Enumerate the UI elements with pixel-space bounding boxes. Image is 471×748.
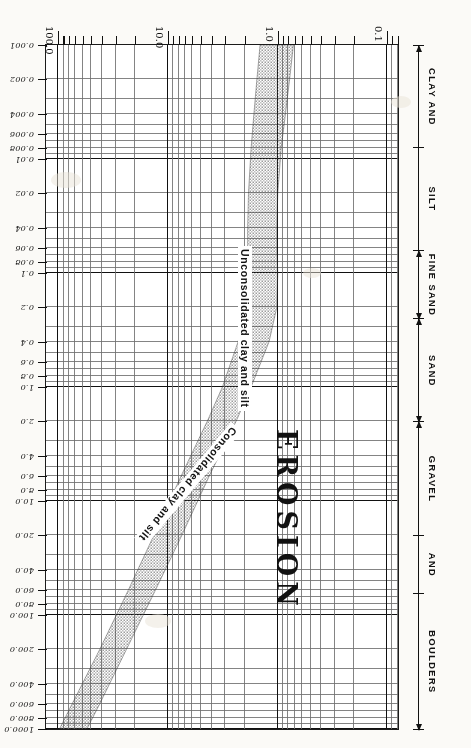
velocity-tick (392, 36, 393, 45)
category-bracket-line (418, 594, 419, 730)
category-bracket-line (418, 251, 419, 320)
grain-tick (38, 456, 47, 457)
grain-category-label: GRAVEL (427, 456, 437, 502)
grain-tick-label: 2.0 (20, 417, 34, 427)
grain-tick (38, 273, 47, 274)
grain-tick (38, 476, 47, 477)
erosion-region-label: EROSION (271, 429, 302, 611)
grain-tick-label: 60.0 (15, 586, 34, 596)
grain-tick-label: 0.08 (15, 258, 34, 268)
grain-category-label: FINE SAND (427, 254, 437, 317)
grain-tick (38, 134, 47, 135)
grain-tick-label: 0.1 (20, 269, 34, 279)
grain-tick-label: 0.002 (10, 75, 34, 85)
paper-blemish (391, 96, 411, 108)
grain-category-label: SAND (427, 355, 437, 387)
velocity-tick (63, 36, 64, 45)
velocity-tick (354, 36, 355, 45)
grain-tick (38, 362, 47, 363)
curve-label-unconsolidated: Unconsolidated clay and silt (238, 246, 252, 411)
grain-tick-label: 100.0 (10, 611, 34, 621)
grain-tick (38, 535, 47, 536)
grain-tick-label: 4.0 (20, 452, 34, 462)
grain-tick (38, 684, 47, 685)
category-arrow-down-icon (417, 250, 423, 257)
velocity-tick (288, 36, 289, 45)
velocity-tick (201, 36, 202, 45)
grain-tick (38, 228, 47, 229)
category-bracket-line (418, 536, 419, 594)
velocity-tick (91, 36, 92, 45)
velocity-tick (245, 36, 246, 45)
velocity-tick (135, 36, 136, 45)
grain-tick (38, 718, 47, 719)
grain-tick-label: 80.0 (15, 600, 34, 610)
grain-category-label: AND (427, 553, 437, 577)
grain-category-label: CLAY AND (427, 68, 437, 126)
velocity-tick (398, 36, 399, 45)
grain-tick-label: 20.0 (15, 531, 34, 541)
velocity-tick (168, 31, 169, 45)
grain-tick-label: 0.4 (20, 338, 34, 348)
grain-tick (38, 729, 47, 730)
velocity-tick (102, 36, 103, 45)
grain-tick-label: 0.006 (10, 130, 34, 140)
paper-blemish (51, 172, 81, 188)
velocity-tick (278, 31, 279, 45)
velocity-tick (185, 36, 186, 45)
grain-tick (38, 615, 47, 616)
velocity-tick (311, 36, 312, 45)
velocity-tick (295, 36, 296, 45)
grain-tick-label: 0.06 (15, 244, 34, 254)
grain-tick (38, 307, 47, 308)
grain-tick (38, 387, 47, 388)
grain-tick-label: 0.008 (10, 144, 34, 154)
category-arrow-down-icon (417, 318, 423, 325)
paper-blemish (303, 268, 321, 278)
paper-blemish (145, 614, 171, 628)
velocity-tick (116, 36, 117, 45)
velocity-tick (173, 36, 174, 45)
grain-tick-label: 200.0 (10, 645, 34, 655)
grain-tick (38, 501, 47, 502)
velocity-tick-label: 1.0 (264, 26, 275, 42)
category-arrow-down-icon (417, 45, 423, 52)
grain-tick (38, 79, 47, 80)
category-arrow-down-icon (417, 421, 423, 428)
grain-tick (38, 159, 47, 160)
velocity-tick (192, 36, 193, 45)
category-bracket-end (413, 147, 424, 148)
plot-frame: EROSION Consolidated clay and silt Uncon… (45, 44, 399, 730)
velocity-tick (179, 36, 180, 45)
grain-tick-label: 1.0 (20, 383, 34, 393)
grain-tick (38, 649, 47, 650)
grain-tick (38, 704, 47, 705)
grain-tick (38, 590, 47, 591)
category-bracket-end (413, 535, 424, 536)
grain-tick-label: 8.0 (20, 486, 34, 496)
grain-tick-label: 400.0 (10, 680, 34, 690)
grain-tick-label: 0.01 (15, 155, 34, 165)
grain-tick (38, 114, 47, 115)
category-bracket-line (418, 46, 419, 148)
velocity-tick (283, 36, 284, 45)
velocity-tick (335, 36, 336, 45)
grain-tick (38, 376, 47, 377)
velocity-tick-label: 10.0 (154, 26, 165, 48)
grain-tick (38, 570, 47, 571)
category-bracket-end (413, 593, 424, 594)
grain-tick-label: 0.004 (10, 110, 34, 120)
category-bracket-line (418, 319, 419, 422)
grain-tick (38, 490, 47, 491)
velocity-tick (321, 36, 322, 45)
grain-tick-label: 0.04 (15, 224, 34, 234)
velocity-tick-label: 100.0 (45, 26, 56, 55)
grain-tick (38, 604, 47, 605)
category-bracket-line (418, 422, 419, 536)
velocity-tick (75, 36, 76, 45)
grain-category-label: BOULDERS (427, 630, 437, 693)
grain-tick-label: 40.0 (15, 566, 34, 576)
grain-tick (38, 148, 47, 149)
grain-tick-label: 0.8 (20, 372, 34, 382)
grain-tick-label: 0.6 (20, 358, 34, 368)
